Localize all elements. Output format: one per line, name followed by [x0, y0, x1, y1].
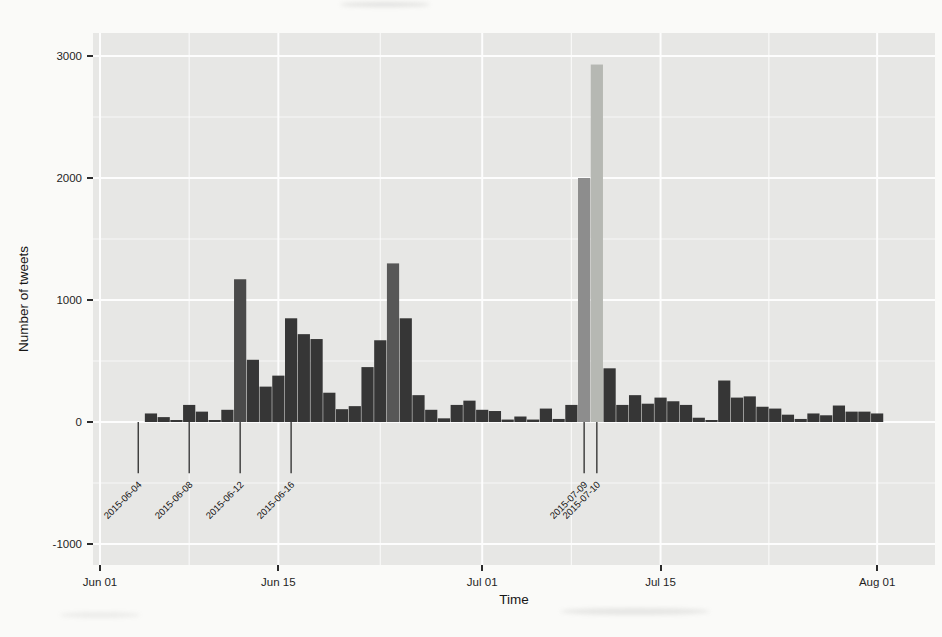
- bar-2015-07-30: [846, 412, 858, 422]
- bar-2015-06-28: [438, 418, 450, 422]
- bar-2015-07-07: [553, 419, 565, 422]
- y-tick-label: 3000: [18, 48, 82, 64]
- bar-2015-06-26: [412, 395, 424, 422]
- bar-2015-07-15: [654, 398, 666, 422]
- bar-2015-06-06: [158, 417, 170, 422]
- y-tick-label: 0: [18, 414, 82, 430]
- bar-2015-06-07: [170, 420, 182, 422]
- bar-2015-07-11: [604, 368, 616, 422]
- bar-2015-07-19: [705, 420, 717, 422]
- y-tick-mark: [87, 55, 93, 57]
- y-tick-mark: [87, 421, 93, 423]
- bar-2015-06-16: [285, 318, 297, 422]
- bar-2015-07-24: [769, 409, 781, 422]
- bar-2015-07-09: [578, 178, 590, 422]
- y-tick-label: 2000: [18, 170, 82, 186]
- bar-2015-07-28: [820, 415, 832, 422]
- bar-2015-07-05: [527, 420, 539, 422]
- scanned-figure-page: 2015-06-042015-06-082015-06-122015-06-16…: [0, 0, 942, 637]
- bar-2015-07-04: [514, 417, 526, 422]
- bar-2015-06-09: [196, 412, 208, 422]
- x-tick-label: Aug 01: [842, 575, 912, 590]
- bar-2015-06-15: [272, 376, 284, 422]
- bar-2015-06-20: [336, 409, 348, 422]
- bar-2015-07-20: [718, 381, 730, 422]
- bar-2015-07-17: [680, 405, 692, 422]
- bar-2015-07-26: [795, 419, 807, 422]
- plot-area-svg: 2015-06-042015-06-082015-06-122015-06-16…: [93, 33, 935, 565]
- bar-2015-07-21: [731, 398, 743, 422]
- y-tick-mark: [87, 299, 93, 301]
- bar-2015-07-03: [502, 420, 514, 422]
- bar-2015-07-22: [744, 396, 756, 422]
- bar-2015-06-14: [260, 387, 272, 422]
- annotation-label-2015-06-16: 2015-06-16: [254, 479, 296, 521]
- bar-2015-07-18: [693, 418, 705, 422]
- bar-2015-07-31: [858, 412, 870, 422]
- bar-2015-06-08: [183, 405, 195, 422]
- bar-2015-07-10: [591, 65, 603, 422]
- y-tick-mark: [87, 543, 93, 545]
- bar-2015-06-17: [298, 334, 310, 422]
- bar-2015-06-10: [209, 420, 221, 422]
- y-axis-title: Number of tweets: [16, 246, 31, 352]
- bar-2015-07-23: [756, 407, 768, 422]
- bar-2015-06-29: [451, 405, 463, 422]
- scan-artifact: [340, 2, 430, 7]
- bar-2015-07-25: [782, 415, 794, 422]
- x-tick-label: Jul 01: [447, 575, 517, 590]
- plot-panel: 2015-06-042015-06-082015-06-122015-06-16…: [93, 33, 935, 565]
- bar-2015-07-12: [616, 405, 628, 422]
- x-tick-mark: [99, 565, 101, 571]
- bar-2015-06-24: [387, 263, 399, 422]
- bar-2015-07-01: [476, 410, 488, 422]
- bar-2015-07-08: [565, 405, 577, 422]
- scan-artifact: [60, 612, 140, 618]
- bar-2015-07-13: [629, 395, 641, 422]
- bar-2015-06-18: [310, 339, 322, 422]
- bar-2015-07-29: [833, 406, 845, 422]
- bar-2015-06-05: [145, 413, 157, 422]
- bar-2015-07-27: [807, 413, 819, 422]
- x-tick-mark: [876, 565, 878, 571]
- annotation-label-2015-06-08: 2015-06-08: [152, 479, 194, 521]
- bar-2015-06-12: [234, 279, 246, 422]
- annotation-label-2015-06-04: 2015-06-04: [101, 479, 143, 521]
- bar-2015-06-22: [361, 367, 373, 422]
- bar-2015-07-16: [667, 401, 679, 422]
- x-tick-label: Jun 15: [243, 575, 313, 590]
- bar-2015-06-27: [425, 410, 437, 422]
- scan-artifact: [560, 608, 710, 615]
- annotation-label-2015-06-12: 2015-06-12: [203, 479, 245, 521]
- x-tick-label: Jun 01: [65, 575, 135, 590]
- x-tick-label: Jul 15: [626, 575, 696, 590]
- bar-2015-06-19: [323, 393, 335, 422]
- y-tick-mark: [87, 177, 93, 179]
- bar-2015-06-23: [374, 340, 386, 422]
- x-tick-mark: [481, 565, 483, 571]
- bar-2015-07-06: [540, 409, 552, 422]
- bar-2015-07-14: [642, 404, 654, 422]
- bar-2015-06-30: [463, 401, 475, 422]
- x-axis-title: Time: [414, 592, 614, 607]
- x-tick-mark: [660, 565, 662, 571]
- x-tick-mark: [277, 565, 279, 571]
- bar-2015-07-02: [489, 411, 501, 422]
- bar-2015-08-01: [871, 413, 883, 422]
- bar-2015-06-21: [349, 406, 361, 422]
- y-tick-label: -1000: [18, 536, 82, 552]
- bar-2015-06-11: [221, 410, 233, 422]
- bar-2015-06-13: [247, 360, 259, 422]
- bar-2015-06-25: [400, 318, 412, 422]
